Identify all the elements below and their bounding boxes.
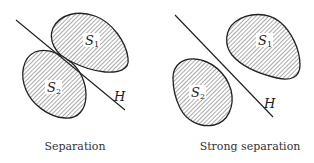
panel-strong-separation: S1 S2 H Strong separation xyxy=(173,15,300,154)
caption-separation: Separation xyxy=(44,140,105,153)
separation-diagram: S1 S2 H Separation S1 S2 H Strong separa… xyxy=(0,0,314,163)
hyperplane-label: H xyxy=(113,89,126,104)
panel-separation: S1 S2 H Separation xyxy=(16,13,128,153)
hyperplane-label: H xyxy=(263,96,276,111)
caption-strong-separation: Strong separation xyxy=(200,140,301,153)
